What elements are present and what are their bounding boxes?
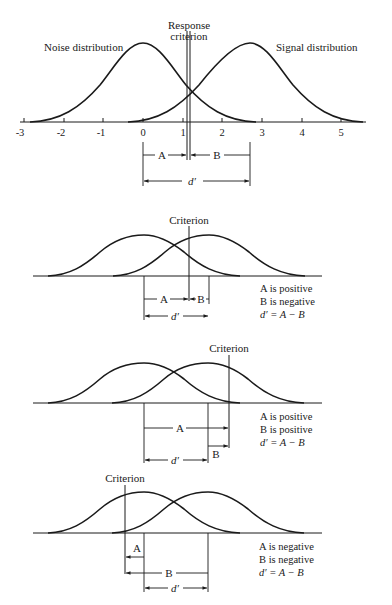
noise-distribution-curve [48, 492, 240, 533]
note-dprime-formula: d′ = A − B [260, 437, 305, 448]
tick-label: 2 [219, 127, 224, 138]
note-b-sign: B is negative [260, 296, 315, 307]
tick-label: 5 [338, 127, 343, 138]
criterion-label: Criterion [105, 472, 145, 484]
dprime-label: d′ [171, 582, 180, 594]
criterion-label: Criterion [169, 214, 209, 226]
note-b-sign: B is negative [259, 554, 314, 565]
signal-distribution-curve [112, 363, 304, 403]
note-b-sign: B is positive [260, 424, 313, 435]
signal-distribution-curve [112, 492, 304, 533]
signal-distribution-curve [113, 235, 305, 276]
b-label: B [197, 293, 204, 305]
criterion-label: Criterion [209, 342, 249, 354]
response-criterion-label: criterion [170, 30, 208, 42]
dprime-label: d′ [171, 454, 180, 466]
b-label: B [212, 448, 219, 460]
tick-label: 0 [140, 127, 145, 138]
tick-label: -3 [16, 127, 25, 138]
tick-label: 1 [180, 127, 185, 138]
note-a-sign: A is negative [259, 541, 314, 552]
a-label: A [176, 422, 184, 434]
b-label: B [213, 149, 220, 161]
case-3-diagram: Criterion A B d′ A is negative B is nega… [33, 472, 322, 594]
b-label: B [165, 567, 172, 579]
noise-distribution-curve [48, 235, 240, 276]
noise-distribution-label: Noise distribution [44, 41, 124, 53]
case-1-diagram: Criterion A B d′ A is positive B is nega… [33, 214, 322, 322]
tick-label: -2 [57, 127, 66, 138]
dprime-label: d′ [171, 310, 180, 322]
signal-detection-figure: -3 -2 -1 0 1 2 3 4 5 Noise distribution … [0, 0, 392, 605]
signal-distribution-label: Signal distribution [276, 41, 358, 53]
note-dprime-formula: d′ = A − B [259, 567, 304, 578]
a-label: A [158, 149, 166, 161]
tick-label: -1 [97, 127, 106, 138]
main-diagram: -3 -2 -1 0 1 2 3 4 5 Noise distribution … [16, 19, 366, 187]
noise-distribution-curve [30, 43, 256, 122]
dprime-label: d′ [188, 175, 197, 187]
note-a-sign: A is positive [260, 411, 313, 422]
note-dprime-formula: d′ = A − B [260, 309, 305, 320]
note-a-sign: A is positive [260, 283, 313, 294]
a-label: A [133, 542, 141, 554]
a-label: A [160, 293, 168, 305]
tick-label: 3 [259, 127, 264, 138]
tick-label: 4 [299, 127, 305, 138]
axis-tick-labels: -3 -2 -1 0 1 2 3 4 5 [16, 127, 344, 138]
noise-distribution-curve [48, 363, 240, 403]
case-2-diagram: Criterion A B d′ A is positive B is posi… [33, 342, 322, 466]
axis-ticks [24, 118, 341, 122]
